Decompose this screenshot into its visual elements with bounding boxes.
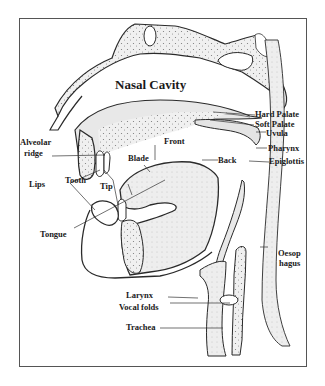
larynx-column [200,261,226,356]
label-vocal-folds: Vocal folds [119,303,159,312]
label-trachea: Trachea [126,323,156,332]
label-uvula: Uvula [266,129,288,138]
label-back: Back [218,156,236,165]
label-front: Front [164,137,185,146]
label-alveolar-ridge-line2: ridge [24,149,43,158]
label-pharynx: Pharynx [268,144,299,153]
label-nasal-cavity: Nasal Cavity [115,78,186,91]
lower-lip [92,201,119,225]
label-lips: Lips [29,180,45,189]
label-hard-palate: Hard Palate [255,110,299,119]
vocal-folds [220,295,238,305]
label-alveolar-ridge-line1: Alveolar [20,138,51,147]
label-tip: Tip [100,182,113,191]
label-larynx: Larynx [126,291,153,300]
label-oesophagus-line1: Oesop [278,249,301,258]
label-tongue: Tongue [40,230,67,239]
vocal-tract-illustration [0,0,325,386]
label-oesophagus-line2: hagus [279,259,300,268]
soft-palate [195,119,260,145]
label-epiglottis: Epiglottis [269,157,304,166]
label-tooth: Tooth [65,176,86,185]
label-blade: Blade [128,154,149,163]
